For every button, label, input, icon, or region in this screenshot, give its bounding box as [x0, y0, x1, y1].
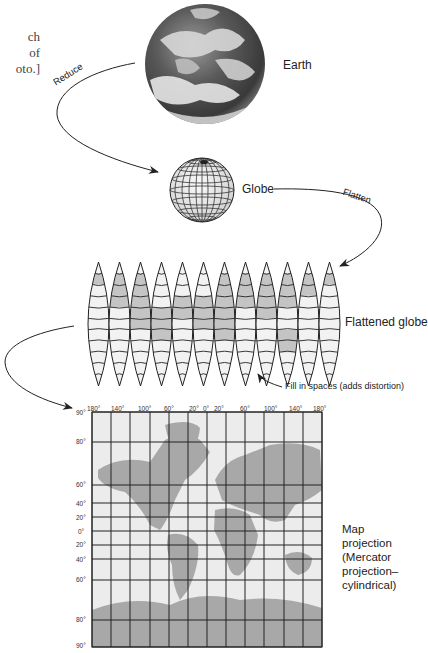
flattened-globe-gores	[88, 262, 340, 386]
lat-tick: 90°	[76, 409, 86, 416]
map-label-line-4: projection–	[342, 564, 398, 578]
lon-tick: 140°	[289, 405, 302, 412]
fill-spaces-label: Fill in spaces (adds distortion)	[285, 381, 404, 391]
map-projection-label: Map projection (Mercator projection– cyl…	[342, 522, 398, 592]
earth-label: Earth	[283, 58, 312, 72]
lat-tick: 90°	[76, 642, 86, 649]
lat-tick: 20°	[76, 541, 86, 548]
globe-label: Globe	[242, 182, 274, 196]
lat-tick: 60°	[76, 481, 86, 488]
lon-tick: 180°	[87, 405, 100, 412]
flattened-globe-label: Flattened globe	[345, 315, 428, 329]
map-label-line-2: projection	[342, 536, 398, 550]
lon-tick: 0°	[203, 405, 209, 412]
lat-tick: 60°	[76, 576, 86, 583]
lat-tick: 80°	[76, 438, 86, 445]
lon-tick: 180°	[313, 405, 326, 412]
globe-image	[170, 158, 234, 222]
lon-tick: 20°	[189, 405, 199, 412]
lon-tick: 100°	[264, 405, 277, 412]
lat-tick: 0°	[78, 528, 84, 535]
lat-tick: 20°	[76, 514, 86, 521]
to-map-arrow	[5, 326, 74, 408]
map-label-line-5: cylindrical)	[342, 578, 398, 592]
lon-tick: 60°	[164, 405, 174, 412]
earth-image	[145, 4, 265, 140]
lon-tick: 20°	[214, 405, 224, 412]
lat-tick: 80°	[76, 616, 86, 623]
lon-tick: 100°	[138, 405, 151, 412]
lat-tick: 40°	[76, 556, 86, 563]
reduce-arrow	[57, 63, 158, 172]
lat-tick: 40°	[76, 500, 86, 507]
lon-tick: 140°	[111, 405, 124, 412]
map-label-line-3: (Mercator	[342, 550, 398, 564]
lon-tick: 60°	[240, 405, 250, 412]
map-label-line-1: Map	[342, 522, 398, 536]
mercator-map	[92, 412, 322, 647]
